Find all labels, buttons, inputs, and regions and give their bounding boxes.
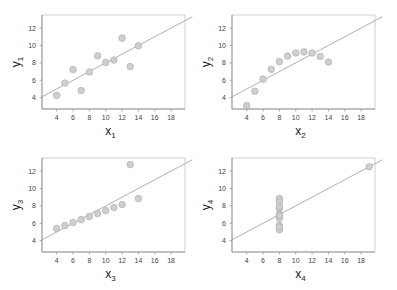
data-point xyxy=(94,210,101,217)
x-tick-label: 18 xyxy=(357,257,365,264)
y-tick-label: 4 xyxy=(222,237,226,244)
data-point xyxy=(309,50,316,57)
anscombe-quartet-chart: 46810121416184681012x1y14681012141618468… xyxy=(0,0,397,290)
data-point xyxy=(70,66,77,73)
y-tick-label: 6 xyxy=(222,77,226,84)
x-tick-label: 8 xyxy=(277,114,281,121)
x-tick-label: 8 xyxy=(277,257,281,264)
x-tick-label: 14 xyxy=(325,257,333,264)
x-tick-label: 12 xyxy=(118,257,126,264)
scatter-panel-2: 46810121416184681012x2y2 xyxy=(199,15,382,140)
x-tick-label: 10 xyxy=(102,257,110,264)
x-tick-label: 12 xyxy=(308,257,316,264)
data-point xyxy=(127,161,134,168)
y-tick-label: 8 xyxy=(222,202,226,209)
x-tick-label: 8 xyxy=(87,114,91,121)
data-point xyxy=(127,63,134,70)
y-tick-label: 6 xyxy=(32,77,36,84)
data-point xyxy=(111,204,118,211)
data-point xyxy=(53,225,60,232)
y-tick-label: 8 xyxy=(32,59,36,66)
x-tick-label: 6 xyxy=(71,257,75,264)
regression-line xyxy=(232,160,382,240)
data-point xyxy=(70,219,77,226)
x-tick-label: 16 xyxy=(341,257,349,264)
data-point xyxy=(102,207,109,214)
x-tick-label: 16 xyxy=(151,114,159,121)
x-tick-label: 8 xyxy=(87,257,91,264)
data-point xyxy=(276,203,283,210)
y-axis-label: y1 xyxy=(9,56,25,67)
y-tick-label: 12 xyxy=(218,25,226,32)
plot-frame xyxy=(232,15,375,109)
x-axis-label: x4 xyxy=(295,267,306,283)
x-tick-label: 14 xyxy=(325,114,333,121)
y-tick-label: 8 xyxy=(222,59,226,66)
data-point xyxy=(111,57,118,64)
x-tick-label: 4 xyxy=(245,114,249,121)
y-tick-label: 10 xyxy=(218,42,226,49)
x-tick-label: 6 xyxy=(261,257,265,264)
data-point xyxy=(119,35,126,42)
x-tick-label: 12 xyxy=(308,114,316,121)
data-point xyxy=(119,201,126,208)
x-tick-label: 10 xyxy=(292,114,300,121)
regression-line xyxy=(232,17,382,97)
x-axis-label: x2 xyxy=(295,124,306,140)
data-point xyxy=(284,53,291,60)
data-point xyxy=(135,195,142,202)
data-point xyxy=(276,224,283,231)
y-tick-label: 12 xyxy=(28,168,36,175)
x-tick-label: 14 xyxy=(135,114,143,121)
x-tick-label: 14 xyxy=(135,257,143,264)
data-point xyxy=(292,50,299,57)
data-point xyxy=(260,76,267,83)
y-tick-label: 4 xyxy=(222,94,226,101)
x-tick-label: 18 xyxy=(357,114,365,121)
data-point xyxy=(86,213,93,220)
x-axis-label: x1 xyxy=(105,124,116,140)
data-point xyxy=(276,58,283,65)
x-tick-label: 18 xyxy=(167,257,175,264)
x-tick-label: 16 xyxy=(341,114,349,121)
y-tick-label: 10 xyxy=(28,42,36,49)
y-tick-label: 4 xyxy=(32,237,36,244)
data-point xyxy=(53,92,60,99)
data-point xyxy=(366,163,373,170)
y-tick-label: 8 xyxy=(32,202,36,209)
x-tick-label: 6 xyxy=(261,114,265,121)
x-tick-label: 4 xyxy=(245,257,249,264)
data-point xyxy=(135,43,142,50)
scatter-panel-1: 46810121416184681012x1y1 xyxy=(9,15,192,140)
x-tick-label: 4 xyxy=(55,257,59,264)
y-tick-label: 6 xyxy=(32,220,36,227)
x-axis-label: x3 xyxy=(105,267,116,283)
data-point xyxy=(78,216,85,223)
y-axis-label: y3 xyxy=(9,199,25,210)
x-tick-label: 16 xyxy=(151,257,159,264)
y-axis-label: y2 xyxy=(199,56,215,67)
data-point xyxy=(301,49,308,56)
y-tick-label: 10 xyxy=(28,185,36,192)
y-tick-label: 10 xyxy=(218,185,226,192)
data-point xyxy=(94,53,101,60)
data-point xyxy=(102,59,109,66)
scatter-panel-4: 46810121416184681012x4y4 xyxy=(199,158,382,283)
y-tick-label: 4 xyxy=(32,94,36,101)
data-point xyxy=(268,66,275,73)
data-point xyxy=(78,87,85,94)
x-tick-label: 18 xyxy=(167,114,175,121)
data-point xyxy=(276,212,283,219)
y-tick-label: 6 xyxy=(222,220,226,227)
y-tick-label: 12 xyxy=(28,25,36,32)
plot-frame xyxy=(232,158,375,252)
data-point xyxy=(62,80,69,87)
x-tick-label: 12 xyxy=(118,114,126,121)
data-point xyxy=(252,88,259,95)
y-axis-label: y4 xyxy=(199,199,215,210)
data-point xyxy=(86,69,93,76)
x-tick-label: 6 xyxy=(71,114,75,121)
scatter-panel-3: 46810121416184681012x3y3 xyxy=(9,158,192,283)
data-point xyxy=(317,53,324,60)
data-point xyxy=(325,59,332,66)
